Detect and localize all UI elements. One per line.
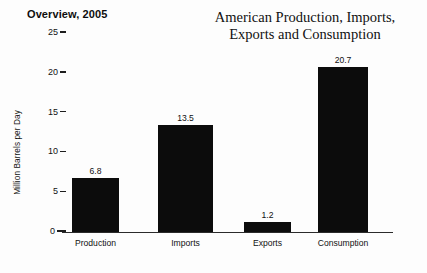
- chart-figure: Overview, 2005 American Production, Impo…: [0, 0, 427, 273]
- y-tick-label: 10: [48, 146, 58, 156]
- y-tick-label: 15: [48, 107, 58, 117]
- bar-value-exports: 1.2: [232, 210, 303, 220]
- y-tick-mark: [60, 151, 66, 152]
- plot-area: Million Barrels per Day 0510152025 6.8Pr…: [0, 0, 427, 273]
- bar-exports: [244, 222, 291, 232]
- y-tick-label: 0: [50, 226, 55, 236]
- x-axis-line: [62, 232, 393, 233]
- y-tick-mark: [60, 191, 66, 192]
- y-tick-label: 20: [48, 67, 58, 77]
- x-category-imports: Imports: [140, 238, 231, 248]
- y-tick-5: 5: [40, 186, 66, 198]
- x-category-production: Production: [54, 238, 137, 248]
- x-category-exports: Exports: [226, 238, 309, 248]
- bar-production: [72, 178, 119, 232]
- bar-value-imports: 13.5: [146, 113, 225, 123]
- y-tick-20: 20: [40, 67, 66, 79]
- bar-consumption: [318, 67, 368, 232]
- y-tick-mark: [60, 31, 66, 32]
- y-tick-mark: [60, 111, 66, 112]
- y-tick-10: 10: [40, 146, 66, 158]
- bar-value-production: 6.8: [60, 166, 131, 176]
- y-axis-label: Million Barrels per Day: [13, 105, 22, 201]
- y-tick-15: 15: [40, 107, 66, 119]
- bar-value-consumption: 20.7: [306, 55, 380, 65]
- y-tick-25: 25: [40, 27, 66, 39]
- y-tick-mark: [60, 71, 66, 72]
- x-category-consumption: Consumption: [300, 238, 386, 248]
- bar-imports: [158, 125, 213, 232]
- y-tick-label: 5: [53, 186, 58, 196]
- y-tick-label: 25: [48, 27, 58, 37]
